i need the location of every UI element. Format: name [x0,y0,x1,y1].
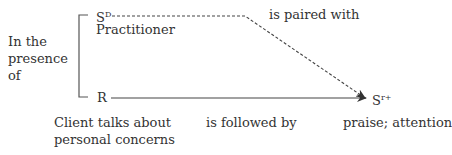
reinforcer-superscript: r+ [381,93,392,102]
response-line-2: personal concerns [54,131,175,148]
reinforcer-s: S [372,93,381,108]
reinforcer-description: praise; attention [343,114,452,131]
reinforcer-symbol: Sr+ [372,89,391,109]
context-line-3: of [8,67,68,84]
sd-superscript: D [105,10,111,19]
response-line-1: Client talks about [54,114,175,131]
context-line-2: presence [8,50,68,67]
context-line-1: In the [8,33,68,50]
bracket-line [79,15,88,97]
sd-description: Practitioner [96,21,175,38]
response-symbol: R [97,89,107,106]
paired-label: is paired with [269,6,359,23]
context-label: In the presence of [8,33,68,84]
followed-label: is followed by [206,114,297,131]
response-description: Client talks about personal concerns [54,114,175,148]
